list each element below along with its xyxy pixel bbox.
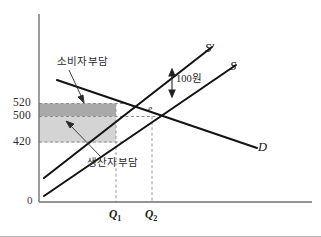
tax-gap-arrow xyxy=(169,69,175,97)
x-tick-label-q2: Q2 xyxy=(145,209,157,223)
consumer-burden-arrow xyxy=(69,70,84,103)
supply-shifted-curve-label: S' xyxy=(205,42,214,55)
supply-demand-tax-diagram xyxy=(0,0,321,237)
consumer-burden-band xyxy=(39,104,116,117)
equilibrium-point-label: e xyxy=(148,105,152,115)
y-tick-label-520: 520 xyxy=(13,97,31,109)
x-tick-label-q2-sub: 2 xyxy=(153,214,157,223)
y-tick-label-500: 500 xyxy=(13,110,31,122)
producer-burden-label: 생산자부담 xyxy=(87,157,138,168)
origin-label: 0 xyxy=(27,195,33,206)
consumer-burden-label: 소비자부담 xyxy=(57,56,108,67)
y-tick-label-420: 420 xyxy=(13,136,31,148)
tax-amount-label: 100원 xyxy=(176,74,202,85)
demand-curve-label: D xyxy=(258,141,267,154)
supply-curve-label: S xyxy=(230,60,236,73)
producer-burden-band xyxy=(39,117,116,143)
figure-canvas: 520 500 420 0 Q1 Q2 S' S D e 100원 소비자부담 … xyxy=(0,0,321,237)
x-tick-label-q1-sub: 1 xyxy=(117,214,121,223)
x-tick-label-q1: Q1 xyxy=(109,209,121,223)
